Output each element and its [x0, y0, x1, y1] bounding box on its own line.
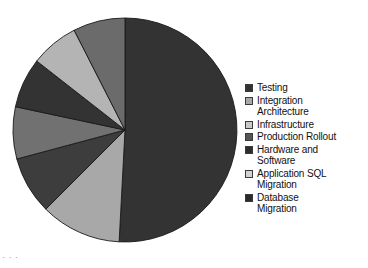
legend-swatch-database-migration — [245, 194, 253, 202]
legend-item-hardware-and-software: Hardware and Software — [245, 144, 368, 167]
legend-label-hardware-and-software: Hardware and Software — [257, 144, 318, 167]
legend-swatch-integration-architecture — [245, 97, 253, 105]
chart-legend: Testing Integration Architecture Infrast… — [245, 82, 368, 216]
pie-chart-svg — [0, 0, 248, 252]
footer-note: · · · — [2, 252, 62, 261]
legend-label-integration-architecture: Integration Architecture — [257, 95, 309, 118]
legend-label-testing: Testing — [257, 82, 288, 94]
legend-label-application-sql-migration: Application SQL Migration — [257, 168, 326, 191]
legend-item-integration-architecture: Integration Architecture — [245, 95, 368, 118]
legend-swatch-testing — [245, 84, 253, 92]
pie-slice-group — [13, 18, 237, 242]
legend-swatch-production-rollout — [245, 133, 253, 141]
legend-item-infrastructure: Infrastructure — [245, 119, 368, 131]
pie-chart-figure: Testing Integration Architecture Infrast… — [0, 0, 368, 268]
legend-swatch-application-sql-migration — [245, 170, 253, 178]
legend-item-database-migration: Database Migration — [245, 192, 368, 215]
legend-swatch-infrastructure — [245, 121, 253, 129]
legend-swatch-hardware-and-software — [245, 146, 253, 154]
legend-item-production-rollout: Production Rollout — [245, 131, 368, 143]
legend-item-testing: Testing — [245, 82, 368, 94]
legend-label-production-rollout: Production Rollout — [257, 131, 336, 143]
legend-label-database-migration: Database Migration — [257, 192, 299, 215]
pie-slice-testing — [119, 18, 237, 242]
legend-label-infrastructure: Infrastructure — [257, 119, 314, 131]
legend-item-application-sql-migration: Application SQL Migration — [245, 168, 368, 191]
